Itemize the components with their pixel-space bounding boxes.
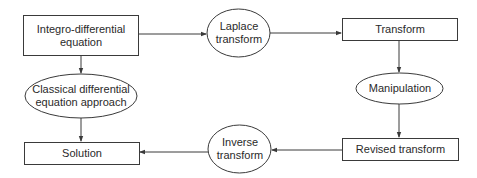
label-solution: Solution	[24, 142, 140, 165]
label-classical-approach: Classical differential equation approach	[25, 74, 137, 118]
label-revised-transform: Revised transform	[342, 138, 459, 161]
label-inverse-transform: Inverse transform	[208, 125, 272, 173]
label-manipulation: Manipulation	[356, 73, 444, 104]
label-transform: Transform	[342, 18, 458, 41]
label-integro-differential-equation: Integro-differential equation	[23, 15, 139, 56]
label-laplace-transform: Laplace transform	[207, 9, 271, 57]
